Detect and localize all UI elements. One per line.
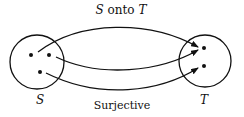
- surjection-diagram: S onto T S T Surjective: [0, 0, 244, 117]
- diagram-caption: Surjective: [94, 99, 151, 112]
- s-element-1: [29, 53, 33, 57]
- set-s-circle: [10, 35, 64, 89]
- mapping-arrow-3: [46, 68, 198, 90]
- t-element-2: [202, 64, 206, 68]
- s-element-2: [47, 53, 51, 57]
- s-element-3: [38, 70, 42, 74]
- set-t-label: T: [200, 93, 209, 107]
- set-s-label: S: [36, 93, 44, 107]
- mapping-arrow-1: [38, 27, 198, 52]
- set-t-circle: [179, 35, 231, 87]
- t-element-1: [202, 46, 206, 50]
- diagram-title: S onto T: [96, 3, 148, 17]
- mapping-arrow-2: [56, 50, 198, 70]
